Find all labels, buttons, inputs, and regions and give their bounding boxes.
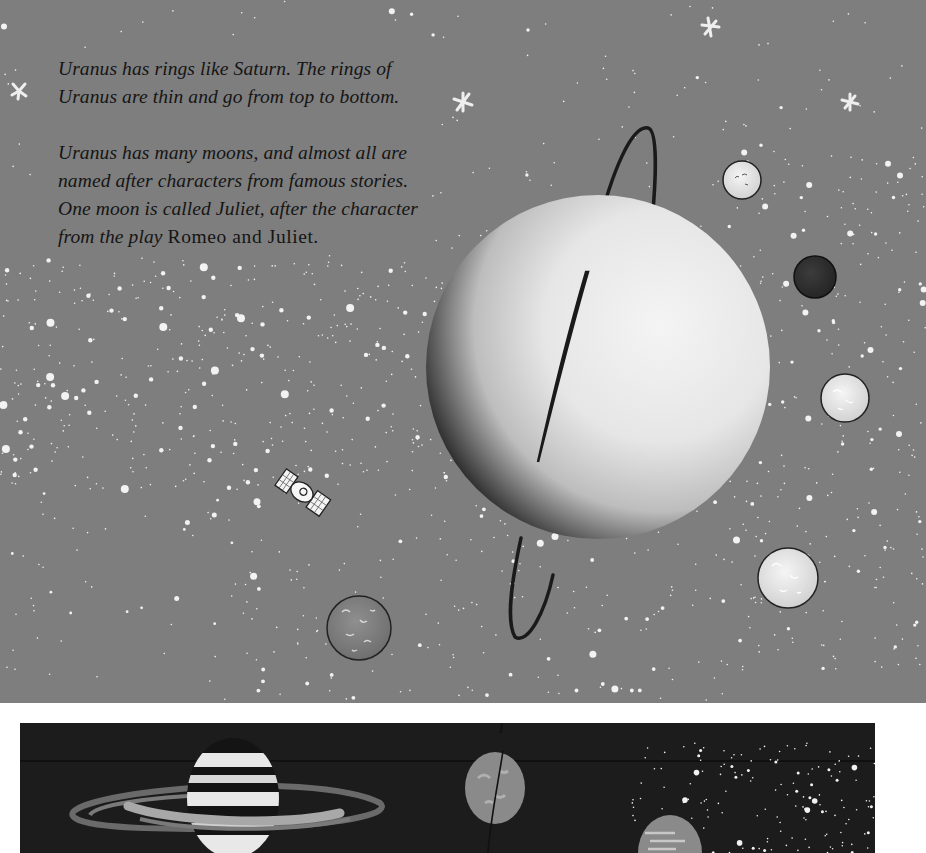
star-dot <box>792 642 794 644</box>
star-dot <box>874 661 876 663</box>
star-dot <box>887 376 889 378</box>
star-dot <box>74 396 78 400</box>
star-dot <box>867 831 870 834</box>
star-dot <box>725 791 727 793</box>
paragraph-moons-end: . <box>314 226 319 247</box>
star-dot <box>894 645 897 648</box>
star-dot <box>17 299 19 301</box>
star-dot <box>221 319 223 321</box>
star-dot <box>403 310 407 314</box>
star-dot <box>632 70 634 72</box>
star-dot <box>409 489 411 491</box>
star-dot <box>202 295 206 299</box>
star-dot <box>313 409 315 411</box>
star-dot <box>759 748 761 750</box>
star-dot <box>320 299 322 301</box>
star-dot <box>446 480 448 482</box>
star-dot <box>157 349 159 351</box>
star-dot <box>844 223 846 225</box>
star-dot <box>159 306 163 310</box>
star-dot <box>37 381 39 383</box>
star-dot <box>36 383 40 387</box>
star-dot <box>96 676 98 678</box>
star-dot <box>702 770 704 772</box>
star-dot <box>577 82 579 84</box>
star-dot <box>235 583 237 585</box>
star-dot <box>279 551 281 553</box>
star-dot <box>741 774 743 776</box>
star-dot <box>624 617 628 621</box>
star-dot <box>84 46 86 48</box>
star-dot <box>310 450 312 452</box>
star-dot <box>770 335 772 337</box>
star-dot <box>452 117 454 119</box>
star-dot <box>700 802 702 804</box>
star-dot <box>821 810 824 813</box>
star-dot <box>33 610 35 612</box>
star-dot <box>15 483 17 485</box>
star-dot <box>18 476 20 478</box>
star-dot <box>194 452 196 454</box>
star-dot <box>295 465 297 467</box>
star-dot <box>762 198 764 200</box>
star-dot <box>861 178 863 180</box>
star-dot <box>920 300 926 306</box>
star-dot <box>8 83 10 85</box>
star-dot <box>831 492 833 494</box>
star-dot <box>916 511 918 513</box>
star-dot <box>33 468 37 472</box>
star-dot <box>761 598 763 600</box>
star-dot <box>644 757 646 759</box>
star-dot <box>851 844 853 846</box>
star-dot <box>441 282 443 284</box>
star-dot <box>199 345 201 347</box>
star-dot <box>178 426 182 430</box>
star-dot <box>190 280 192 282</box>
star-dot <box>661 768 663 770</box>
star-dot <box>412 451 414 453</box>
star-dot <box>20 383 22 385</box>
star-dot <box>272 301 274 303</box>
star-dot <box>211 444 215 448</box>
star-dot <box>440 192 442 194</box>
star-dot <box>779 751 781 753</box>
star-dot <box>765 533 767 535</box>
star-dot <box>723 129 725 131</box>
star-dot <box>797 525 799 527</box>
star-dot <box>307 466 309 468</box>
star-dot <box>30 278 32 280</box>
star-dot <box>169 449 171 451</box>
star-dot <box>729 481 731 483</box>
star-dot <box>50 591 53 594</box>
star-dot <box>349 464 351 466</box>
star-dot <box>305 657 307 659</box>
star-dot <box>375 359 377 361</box>
star-dot <box>710 598 712 600</box>
star-dot <box>874 637 876 639</box>
star-dot <box>480 514 484 518</box>
star-dot <box>741 754 743 756</box>
star-dot <box>342 449 344 451</box>
star-dot <box>921 287 926 293</box>
star-dot <box>695 589 697 591</box>
star-dot <box>17 420 19 422</box>
star-dot <box>893 548 895 550</box>
star-dot <box>246 653 248 655</box>
star-dot <box>37 637 39 639</box>
star-dot <box>33 265 35 267</box>
star-dot <box>781 330 783 332</box>
star-dot <box>93 299 95 301</box>
star-dot <box>864 555 866 557</box>
star-dot <box>857 570 860 573</box>
neptune-planet <box>638 815 702 853</box>
star-dot <box>121 485 129 493</box>
star-dot <box>209 328 213 332</box>
star-dot <box>450 460 452 462</box>
star-dot <box>425 277 427 279</box>
star-dot <box>752 847 755 850</box>
star-dot <box>699 749 702 752</box>
star-dot <box>209 680 211 682</box>
star-dot <box>747 769 750 772</box>
star-dot <box>104 410 106 412</box>
star-dot <box>366 417 370 421</box>
